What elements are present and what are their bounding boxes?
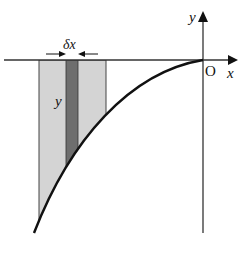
diagram-svg: δx y y O x [0, 0, 249, 256]
delta-x-right-arrowhead-icon [78, 51, 85, 57]
y-axis-label: y [187, 9, 196, 25]
y-axis-arrow-icon [198, 11, 208, 22]
delta-x-label: δx [63, 37, 77, 52]
diagram-canvas: δx y y O x [0, 0, 249, 256]
x-axis-arrow-icon [228, 55, 238, 65]
origin-label: O [205, 63, 216, 79]
dark-strip-element [66, 60, 78, 250]
strip-height-label: y [53, 93, 62, 109]
x-axis-label: x [226, 65, 234, 81]
